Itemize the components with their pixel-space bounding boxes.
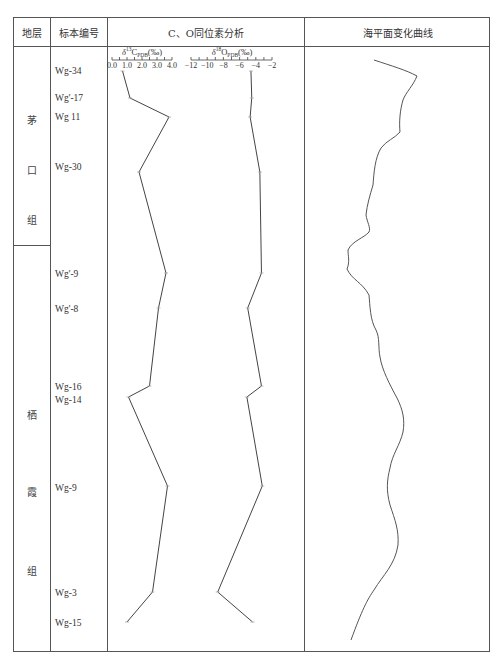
svg-text:3.0: 3.0 xyxy=(152,61,162,70)
svg-text:−4: −4 xyxy=(252,61,261,70)
carbon-isotope-curve xyxy=(123,71,170,622)
svg-text:4.0: 4.0 xyxy=(167,61,177,70)
isotope-and-sealevel-plots: δ13CPDB(‰) δ18OPDB(‰) 0.01.02.03.04.0 −1… xyxy=(0,0,503,665)
carbon-axis-label: δ13CPDB(‰) xyxy=(122,46,162,58)
svg-text:−12: −12 xyxy=(185,61,198,70)
carbon-axis: 0.01.02.03.04.0 xyxy=(107,57,177,70)
svg-text:−8: −8 xyxy=(219,61,228,70)
svg-text:1.0: 1.0 xyxy=(122,61,132,70)
oxygen-isotope-curve xyxy=(218,71,263,622)
oxygen-axis: −12−10−8−6−4−2 xyxy=(185,57,277,70)
svg-text:−2: −2 xyxy=(268,61,277,70)
svg-text:0.0: 0.0 xyxy=(107,61,117,70)
sea-level-curve xyxy=(347,60,417,640)
oxygen-axis-label: δ18OPDB(‰) xyxy=(212,46,253,58)
svg-text:−6: −6 xyxy=(235,61,244,70)
svg-text:−10: −10 xyxy=(201,61,214,70)
svg-text:2.0: 2.0 xyxy=(137,61,147,70)
data-point-markers xyxy=(121,71,265,622)
